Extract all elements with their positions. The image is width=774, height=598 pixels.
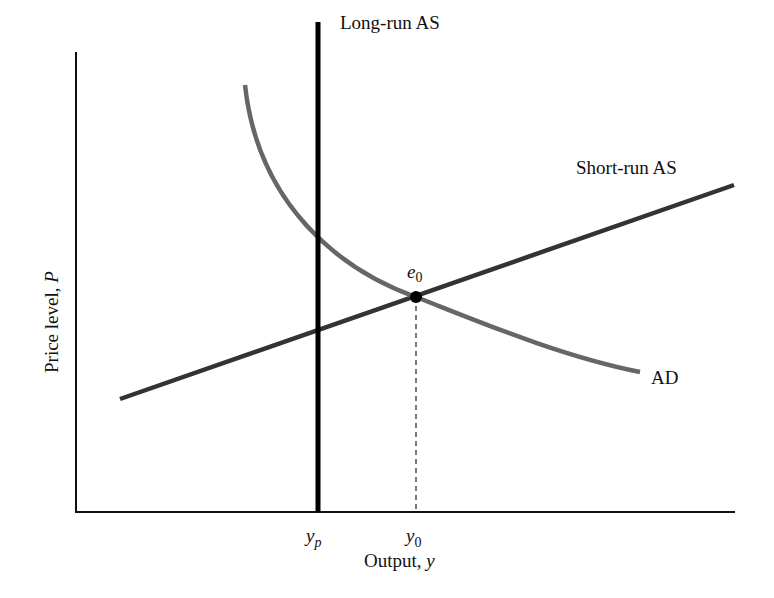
ad-label: AD [651, 367, 678, 388]
ad-curve [245, 85, 640, 372]
ad-as-chart: Long-run AS Short-run AS AD e0 yp y0 Out… [0, 0, 774, 598]
long-run-as-label: Long-run AS [340, 12, 440, 33]
x-tick-potential-output: yp [304, 525, 321, 550]
x-axis-label: Output, y [364, 550, 435, 571]
short-run-as-label: Short-run AS [576, 157, 677, 178]
short-run-as-line [120, 185, 734, 399]
x-tick-equilibrium-output: y0 [404, 525, 421, 550]
equilibrium-label: e0 [407, 261, 422, 285]
y-axis-label: Price level, P [41, 271, 62, 373]
equilibrium-point [410, 291, 422, 303]
equilibrium-label-main: e [407, 261, 415, 282]
equilibrium-label-sub: 0 [415, 270, 422, 285]
